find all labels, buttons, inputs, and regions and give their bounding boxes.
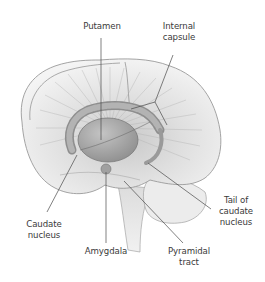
label-internal-capsule: Internal capsule — [157, 21, 201, 43]
label-tail-of-caudate: Tail of caudate nucleus — [214, 195, 258, 228]
label-pyramidal-tract: Pyramidal tract — [166, 246, 212, 268]
label-caudate-nucleus: Caudate nucleus — [22, 219, 66, 241]
label-putamen: Putamen — [80, 21, 124, 32]
diagram-canvas: Putamen Internal capsule Caudate nucleus… — [0, 0, 265, 282]
label-amygdala: Amygdala — [83, 246, 129, 257]
